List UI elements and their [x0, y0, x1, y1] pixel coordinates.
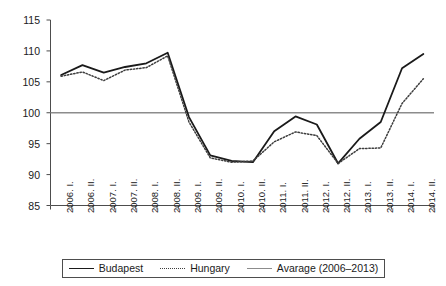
chart-plot-area — [0, 0, 446, 286]
x-tick-label: 2014. II. — [427, 178, 437, 212]
legend-swatch-icon — [69, 265, 94, 273]
legend-swatch-icon — [160, 265, 185, 273]
chart-container: 859095100105110115 2006. I.2006. II.2007… — [0, 0, 446, 286]
legend-item[interactable]: Hungary — [160, 263, 230, 274]
x-tick-label: 2009. I. — [193, 181, 203, 213]
x-tick-label: 2014. I. — [406, 181, 416, 213]
y-tick-label: 110 — [12, 46, 40, 57]
x-tick-label: 2007. II. — [129, 178, 139, 212]
x-tick-label: 2010. II. — [257, 178, 267, 212]
series-line-hungary — [61, 56, 423, 164]
y-tick-label: 90 — [12, 170, 40, 181]
legend-label: Hungary — [190, 263, 230, 274]
x-tick-label: 2013. I. — [363, 181, 373, 213]
legend-item[interactable]: Budapest — [69, 263, 143, 274]
x-tick-label: 2006. I. — [65, 181, 75, 213]
y-tick-label: 115 — [12, 15, 40, 26]
x-tick-label: 2011. II. — [300, 179, 310, 213]
y-tick-label: 85 — [12, 201, 40, 212]
x-tick-label: 2009. II. — [214, 178, 224, 212]
x-tick-label: 2007. I. — [108, 181, 118, 213]
x-tick-label: 2012. I. — [321, 181, 331, 213]
x-tick-label: 2011. I. — [278, 182, 288, 213]
x-tick-label: 2010. I. — [236, 181, 246, 213]
legend-item[interactable]: Avarage (2006–2013) — [247, 263, 378, 274]
legend-label: Budapest — [99, 263, 143, 274]
x-tick-label: 2013. II. — [385, 178, 395, 212]
x-tick-label: 2006. II. — [86, 178, 96, 212]
legend-swatch-icon — [247, 265, 272, 273]
x-tick-label: 2008. II. — [172, 178, 182, 212]
chart-legend: BudapestHungaryAvarage (2006–2013) — [62, 259, 385, 278]
legend-label: Avarage (2006–2013) — [277, 263, 378, 274]
series-line-budapest — [61, 53, 423, 164]
x-tick-label: 2008. I. — [150, 181, 160, 213]
y-tick-label: 100 — [12, 108, 40, 119]
x-tick-label: 2012. II. — [342, 178, 352, 212]
data-series-layer — [51, 53, 435, 164]
y-tick-label: 95 — [12, 139, 40, 150]
y-axis-ticks — [47, 20, 51, 206]
y-tick-label: 105 — [12, 77, 40, 88]
